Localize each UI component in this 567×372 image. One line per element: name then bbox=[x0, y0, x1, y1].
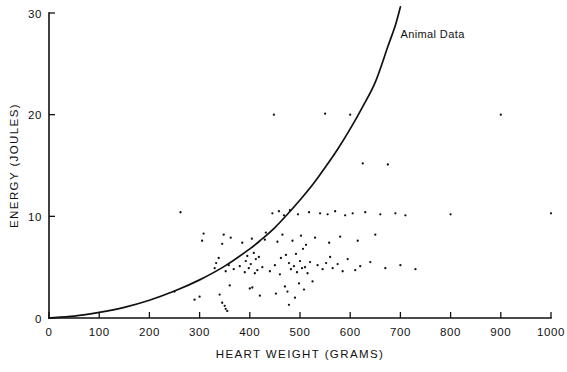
data-point bbox=[179, 211, 181, 213]
data-point bbox=[250, 263, 252, 265]
axis-spines bbox=[49, 13, 551, 318]
data-point bbox=[254, 272, 256, 274]
data-point bbox=[449, 213, 451, 215]
data-point bbox=[273, 114, 275, 116]
x-tick-label: 900 bbox=[490, 326, 511, 338]
data-point bbox=[306, 272, 308, 274]
data-point bbox=[276, 241, 278, 243]
data-point bbox=[230, 237, 232, 239]
data-point bbox=[302, 248, 304, 250]
x-tick-label: 100 bbox=[89, 326, 110, 338]
data-point bbox=[394, 212, 396, 214]
data-point bbox=[337, 263, 339, 265]
data-point bbox=[241, 242, 243, 244]
data-point bbox=[290, 268, 292, 270]
x-axis-ticks bbox=[49, 312, 551, 318]
data-point bbox=[201, 240, 203, 242]
data-point bbox=[404, 214, 406, 216]
data-point bbox=[224, 305, 226, 307]
x-tick-label: 700 bbox=[390, 326, 411, 338]
data-point bbox=[298, 282, 300, 284]
x-tick-label: 200 bbox=[139, 326, 160, 338]
data-point bbox=[214, 267, 216, 269]
data-point bbox=[225, 308, 227, 310]
y-tick-label: 30 bbox=[28, 8, 42, 20]
data-point bbox=[331, 267, 333, 269]
data-point bbox=[326, 213, 328, 215]
data-point bbox=[364, 211, 366, 213]
y-axis-ticks bbox=[49, 13, 55, 318]
data-point bbox=[414, 268, 416, 270]
data-point bbox=[321, 268, 323, 270]
data-point bbox=[301, 267, 303, 269]
x-tick-label: 1000 bbox=[537, 326, 565, 338]
data-point bbox=[550, 212, 552, 214]
data-point bbox=[316, 264, 318, 266]
x-tick-label: 300 bbox=[189, 326, 210, 338]
data-point bbox=[245, 260, 247, 262]
x-tick-label: 600 bbox=[340, 326, 361, 338]
x-tick-label: 500 bbox=[290, 326, 311, 338]
data-point bbox=[269, 270, 271, 272]
data-point bbox=[225, 270, 227, 272]
data-point bbox=[500, 114, 502, 116]
data-point bbox=[342, 270, 344, 272]
data-point bbox=[281, 233, 283, 235]
x-axis-title: HEART WEIGHT (GRAMS) bbox=[216, 348, 385, 360]
x-tick-label: 400 bbox=[239, 326, 260, 338]
x-axis-tick-labels: 01002003004005006007008009001000 bbox=[46, 326, 565, 338]
data-point bbox=[239, 265, 241, 267]
data-point bbox=[248, 267, 250, 269]
data-point bbox=[357, 240, 359, 242]
data-point bbox=[344, 214, 346, 216]
data-point bbox=[352, 212, 354, 214]
data-point bbox=[311, 280, 313, 282]
data-point bbox=[261, 266, 263, 268]
data-point bbox=[362, 162, 364, 164]
data-point bbox=[314, 237, 316, 239]
curve-annotation-label: Animal Data bbox=[400, 28, 465, 40]
data-point bbox=[304, 266, 306, 268]
data-point bbox=[219, 293, 221, 295]
data-point bbox=[399, 264, 401, 266]
data-point bbox=[288, 262, 290, 264]
data-point bbox=[300, 235, 302, 237]
data-point bbox=[274, 264, 276, 266]
x-tick-label: 0 bbox=[46, 326, 53, 338]
data-point bbox=[249, 287, 251, 289]
data-point bbox=[339, 236, 341, 238]
data-point bbox=[349, 114, 351, 116]
data-point bbox=[289, 209, 291, 211]
data-point bbox=[198, 296, 200, 298]
data-point bbox=[221, 243, 223, 245]
data-point bbox=[271, 212, 273, 214]
data-point bbox=[334, 210, 336, 212]
data-point bbox=[253, 252, 255, 254]
data-point bbox=[324, 113, 326, 115]
data-point bbox=[291, 240, 293, 242]
data-point bbox=[347, 258, 349, 260]
data-point bbox=[359, 265, 361, 267]
data-point bbox=[354, 269, 356, 271]
data-point bbox=[296, 271, 298, 273]
data-point bbox=[374, 233, 376, 235]
data-point bbox=[329, 256, 331, 258]
data-point bbox=[244, 271, 246, 273]
data-point bbox=[384, 267, 386, 269]
data-point bbox=[173, 290, 175, 292]
data-point bbox=[325, 262, 327, 264]
data-point bbox=[221, 302, 223, 304]
y-tick-label: 20 bbox=[28, 109, 42, 121]
scatter-point-group bbox=[173, 113, 552, 313]
data-point bbox=[303, 288, 305, 290]
data-point bbox=[275, 292, 277, 294]
data-point bbox=[369, 261, 371, 263]
data-point bbox=[251, 286, 253, 288]
data-point bbox=[319, 212, 321, 214]
data-point bbox=[280, 257, 282, 259]
data-point bbox=[228, 264, 230, 266]
data-point bbox=[288, 304, 290, 306]
data-point bbox=[279, 273, 281, 275]
chart-canvas: 0102030 01002003004005006007008009001000… bbox=[0, 0, 567, 372]
y-axis-tick-labels: 0102030 bbox=[28, 8, 42, 325]
